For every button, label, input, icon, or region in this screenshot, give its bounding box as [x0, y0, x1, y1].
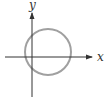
y-axis-label: y — [28, 0, 36, 12]
diagram-canvas: x y — [0, 0, 107, 101]
x-axis-label: x — [97, 50, 104, 64]
